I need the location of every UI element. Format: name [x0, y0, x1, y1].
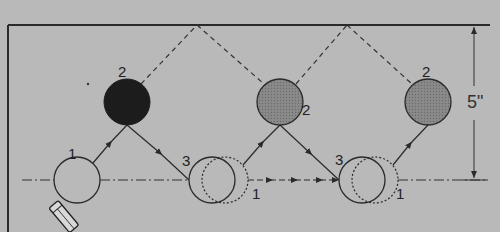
- ball-position-2-right: [405, 79, 451, 125]
- ball-position-2-dark: [104, 79, 150, 125]
- ball-position-1-start: [54, 157, 100, 203]
- label-pos1-a: 1: [68, 146, 76, 161]
- ball-position-3-a: [189, 157, 248, 203]
- dimension-label: 5": [467, 93, 483, 111]
- trajectory: [93, 125, 428, 180]
- boundary-frame: [8, 25, 490, 232]
- label-pos1-b: 1: [252, 186, 260, 201]
- speck: [87, 83, 89, 85]
- pencil-icon: [49, 200, 79, 232]
- reflection-paths: [141, 25, 412, 84]
- label-pos2-mid: 2: [302, 102, 310, 117]
- diagram-svg: [0, 0, 500, 232]
- diagram-canvas: 1 2 3 1 2 3 1 2 5": [0, 0, 500, 232]
- ball-position-3-b: [339, 157, 398, 203]
- label-pos2-right: 2: [422, 64, 430, 79]
- label-pos1-c: 1: [396, 186, 404, 201]
- ball-position-2-mid: [257, 79, 303, 125]
- label-pos2-dark: 2: [118, 64, 126, 79]
- label-pos3-a: 3: [182, 153, 190, 168]
- label-pos3-b: 3: [335, 152, 343, 167]
